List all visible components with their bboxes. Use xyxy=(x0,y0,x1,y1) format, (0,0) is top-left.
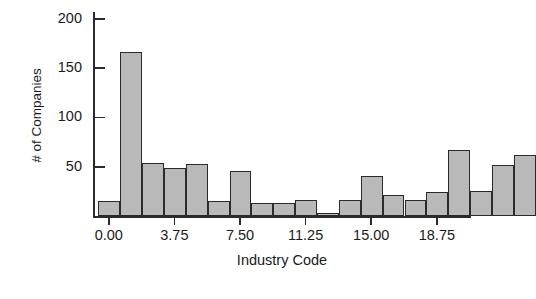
y-axis-tick xyxy=(94,117,105,119)
x-axis-tick-label: 0.00 xyxy=(74,228,144,243)
histogram-bar xyxy=(317,213,339,216)
x-axis-tick xyxy=(108,216,110,225)
x-axis-tick-label: 11.25 xyxy=(271,228,341,243)
histogram-bar xyxy=(426,192,448,216)
histogram-bar xyxy=(405,200,427,216)
y-axis-tick-label: 50 xyxy=(36,159,82,174)
x-axis-tick-label: 18.75 xyxy=(402,228,472,243)
y-axis-tick-label: 200 xyxy=(36,11,82,26)
histogram-bar xyxy=(120,52,142,216)
histogram-bar xyxy=(273,203,295,216)
x-axis-tick xyxy=(436,216,438,225)
histogram-bar xyxy=(142,163,164,216)
histogram-bar xyxy=(361,176,383,216)
histogram-bar xyxy=(339,200,361,216)
x-axis-tick xyxy=(370,216,372,225)
histogram-bar xyxy=(383,195,405,216)
y-axis-tick-labels: 50100150200 xyxy=(30,0,82,299)
histogram-bar xyxy=(186,164,208,216)
x-axis-tick-label: 7.50 xyxy=(205,228,275,243)
x-axis-tick xyxy=(305,216,307,225)
histogram-bar xyxy=(470,191,492,216)
plot-area xyxy=(93,12,471,216)
y-axis-tick-label: 100 xyxy=(36,109,82,124)
x-axis-tick xyxy=(174,216,176,225)
y-axis-tick xyxy=(94,18,105,20)
y-axis-tick-label: 150 xyxy=(36,60,82,75)
x-axis-line xyxy=(93,216,471,218)
x-axis-tick-label: 15.00 xyxy=(336,228,406,243)
x-axis-title: Industry Code xyxy=(93,252,471,268)
histogram-bar xyxy=(251,203,273,216)
x-axis-tick-label: 3.75 xyxy=(139,228,209,243)
y-axis-tick xyxy=(94,67,105,69)
histogram-bar xyxy=(295,200,317,216)
histogram-bar xyxy=(514,155,536,216)
histogram-bar xyxy=(448,150,470,216)
histogram-bar xyxy=(208,201,230,216)
histogram-bar xyxy=(230,171,252,216)
histogram-bar xyxy=(164,168,186,216)
x-axis-tick xyxy=(239,216,241,225)
histogram-bar xyxy=(98,201,120,216)
y-axis-tick xyxy=(94,166,105,168)
histogram-bar xyxy=(492,165,514,216)
